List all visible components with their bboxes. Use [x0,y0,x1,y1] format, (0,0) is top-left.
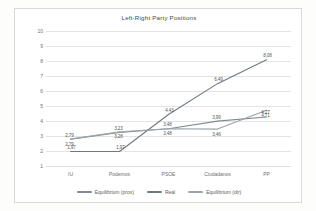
x-axis-tick-label: PSOE [162,171,176,177]
y-axis-tick-label: 10 [37,28,43,34]
x-axis-tick-label: IU [68,171,73,177]
legend-swatch-icon [77,191,92,193]
data-label: 6,49 [214,77,223,82]
data-label: 2,79 [65,141,74,146]
y-axis-tick-label: 2 [40,148,43,154]
legend-item[interactable]: Equilibrium (prox) [77,189,134,195]
data-label: 3,28 [114,134,123,139]
data-label: 4,43 [165,108,174,113]
plot-area: 10987654321 IUPodemosPSOECiudadanosPP 2,… [46,31,291,166]
series-line [71,117,267,139]
legend-item[interactable]: Equilibrium (dir) [188,189,241,195]
legend-item[interactable]: Real [147,189,175,195]
data-label: 3,46 [212,131,221,136]
chart-legend: Equilibrium (prox)RealEquilibrium (dir) [15,189,303,195]
data-label: 8,08 [263,53,272,58]
data-label: 3,99 [212,114,221,119]
y-axis-tick-label: 8 [40,58,43,64]
series-lines [46,31,291,166]
legend-swatch-icon [188,191,203,193]
data-label: 1,97 [116,144,125,149]
gridline [46,166,291,167]
y-axis-tick-label: 1 [40,163,43,169]
data-label: 4,71 [261,112,270,117]
legend-label: Equilibrium (dir) [206,189,241,195]
data-label: 2,79 [65,132,74,137]
legend-label: Real [165,189,175,195]
chart-title: Left-Right Party Positions [15,14,303,21]
y-axis-tick-label: 6 [40,88,43,94]
data-label: 3,48 [163,131,172,136]
x-axis-tick-label: Podemos [109,171,130,177]
chart-screenshot: Left-Right Party Positions 10987654321 I… [0,0,316,211]
x-axis-tick-label: PP [263,171,270,177]
x-axis-tick-label: Ciudadanos [204,171,231,177]
y-axis-tick-label: 9 [40,43,43,49]
y-axis-tick-label: 5 [40,103,43,109]
y-axis-tick-label: 7 [40,73,43,79]
y-axis-tick-label: 3 [40,133,43,139]
y-axis-tick-label: 4 [40,118,43,124]
legend-swatch-icon [147,191,162,193]
chart-frame: Left-Right Party Positions 10987654321 I… [14,8,302,203]
data-label: 3,48 [163,122,172,127]
legend-label: Equilibrium (prox) [95,189,134,195]
series-line [71,60,267,152]
data-label: 3,23 [114,126,123,131]
